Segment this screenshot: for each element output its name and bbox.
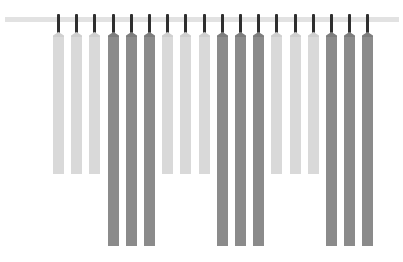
swatch-color-strip [271,37,282,174]
hanger-hook-icon [57,14,60,33]
hanger-hook-icon [330,14,333,33]
swatch-color-strip [144,37,155,246]
swatch-color-strip [180,37,191,174]
swatch-color-strip [108,37,119,246]
swatch-color-strip [71,37,82,174]
hanger-hook-icon [294,14,297,33]
hanger-hook-icon [366,14,369,33]
swatch-color-strip [308,37,319,174]
swatch-color-strip [126,37,137,246]
hanger-hook-icon [148,14,151,33]
hanger-hook-icon [130,14,133,33]
swatch-color-strip [235,37,246,246]
swatch-color-strip [344,37,355,246]
hanger-hook-icon [203,14,206,33]
hanger-hook-icon [184,14,187,33]
hanger-hook-icon [275,14,278,33]
swatch-color-strip [199,37,210,174]
swatch-color-strip [162,37,173,174]
swatch-color-strip [253,37,264,246]
hanging-rail [5,17,399,22]
swatch-color-strip [362,37,373,246]
hanger-hook-icon [257,14,260,33]
swatch-color-strip [290,37,301,174]
swatch-color-strip [217,37,228,246]
hanger-hook-icon [166,14,169,33]
swatch-color-strip [326,37,337,246]
hanger-hook-icon [112,14,115,33]
hanger-hook-icon [312,14,315,33]
hanger-hook-icon [221,14,224,33]
swatch-color-strip [53,37,64,174]
hanger-hook-icon [348,14,351,33]
hanger-hook-icon [75,14,78,33]
hanger-hook-icon [93,14,96,33]
swatch-color-strip [89,37,100,174]
hanger-hook-icon [239,14,242,33]
